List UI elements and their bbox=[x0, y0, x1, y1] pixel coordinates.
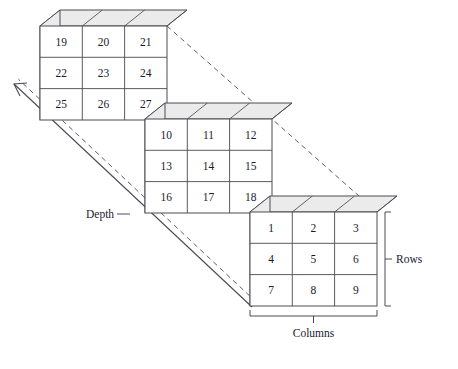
cell-value: 22 bbox=[55, 67, 67, 79]
cell-value: 13 bbox=[160, 160, 172, 172]
cell-value: 7 bbox=[268, 284, 274, 296]
cell-value: 8 bbox=[311, 284, 317, 296]
cell-value: 16 bbox=[160, 191, 172, 203]
rows-label: Rows bbox=[396, 253, 423, 265]
cell-value: 1 bbox=[268, 222, 274, 234]
cell-value: 6 bbox=[353, 253, 359, 265]
slice-top-face bbox=[250, 196, 397, 212]
depth-label: Depth bbox=[86, 208, 114, 221]
front-slice: 123456789 bbox=[250, 196, 397, 306]
cell-value: 14 bbox=[203, 160, 215, 172]
slice-top-face bbox=[145, 103, 292, 119]
cell-value: 17 bbox=[203, 191, 215, 203]
array-3d-diagram: 1920212223242526271011121314151617181234… bbox=[0, 0, 458, 369]
cell-value: 2 bbox=[311, 222, 317, 234]
cell-value: 9 bbox=[353, 284, 359, 296]
cell-value: 20 bbox=[98, 36, 110, 48]
cell-value: 10 bbox=[160, 129, 172, 141]
cell-value: 24 bbox=[140, 67, 152, 79]
cell-value: 25 bbox=[55, 98, 67, 110]
cell-value: 23 bbox=[98, 67, 110, 79]
cell-value: 21 bbox=[140, 36, 152, 48]
cell-value: 26 bbox=[98, 98, 110, 110]
cell-value: 3 bbox=[353, 222, 359, 234]
columns-label: Columns bbox=[293, 327, 335, 339]
cell-value: 27 bbox=[140, 98, 152, 110]
slice-top-face bbox=[40, 10, 187, 26]
cell-value: 11 bbox=[203, 129, 214, 141]
cell-value: 18 bbox=[245, 191, 257, 203]
cell-value: 4 bbox=[268, 253, 274, 265]
cell-value: 12 bbox=[245, 129, 257, 141]
cell-value: 19 bbox=[55, 36, 67, 48]
cell-value: 15 bbox=[245, 160, 257, 172]
cell-value: 5 bbox=[311, 253, 317, 265]
